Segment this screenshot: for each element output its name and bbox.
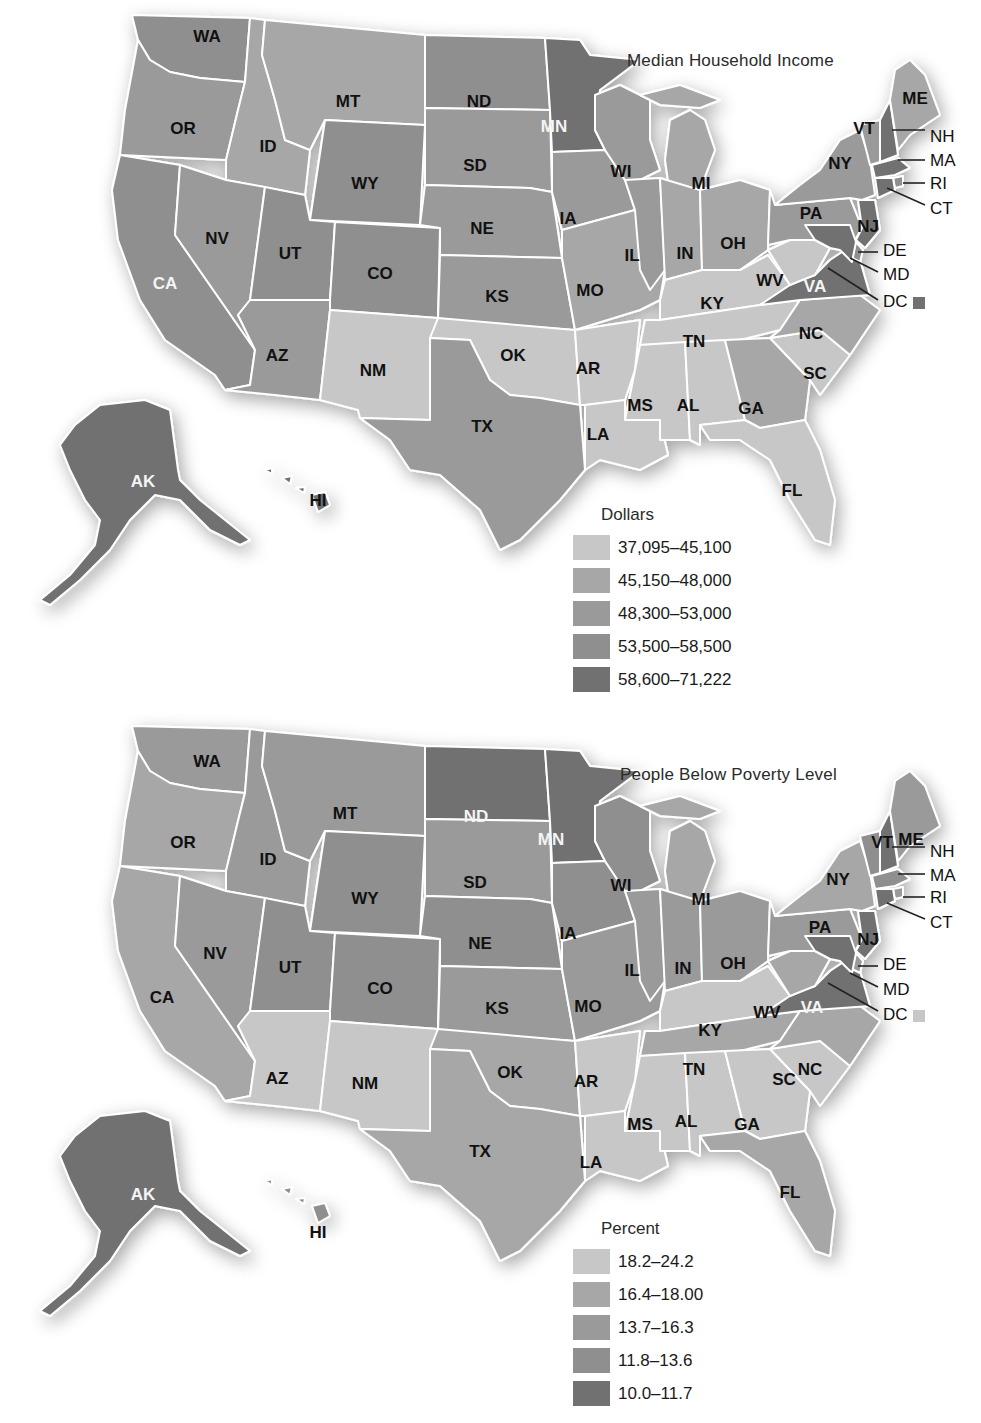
state-label-wi: WI [611,876,632,895]
state-label-ut: UT [279,244,302,263]
legend-swatch [573,535,610,560]
state-label-ok: OK [500,346,526,365]
state-label-mo: MO [576,281,603,300]
state-label-wv: WV [753,1003,781,1022]
state-label-wi: WI [611,162,632,181]
state-label-pa: PA [809,918,831,937]
state-label-oh: OH [720,954,746,973]
legend-swatch [573,1249,610,1274]
state-label-me: ME [902,89,928,108]
us-choropleth-map: WAORCANVIDMTWYUTCOAZNMNDSDNEKSOKTXMNIAMO… [0,711,981,1423]
legend: Percent18.2–24.216.4–18.0013.7–16.311.8–… [573,1219,703,1410]
state-label-ma: MA [930,866,956,885]
state-oh [700,180,770,270]
state-label-mn: MN [541,117,567,136]
state-label-oh: OH [720,234,746,253]
legend-item: 48,300–53,000 [573,597,731,630]
legend: Dollars37,095–45,10045,150–48,00048,300–… [573,505,731,696]
legend-item: 53,500–58,500 [573,630,731,663]
dc-swatch [913,297,925,309]
legend-item: 18.2–24.2 [573,1245,703,1278]
state-label-ne: NE [468,934,492,953]
legend-label: 18.2–24.2 [618,1252,694,1272]
leader-line-ct [887,188,925,205]
legend-label: 13.7–16.3 [618,1318,694,1338]
state-label-nm: NM [360,361,386,380]
legend-item: 13.7–16.3 [573,1311,703,1344]
state-label-ok: OK [497,1063,523,1082]
legend-item: 11.8–13.6 [573,1344,703,1377]
legend-swatch [573,568,610,593]
state-label-in: IN [677,244,694,263]
state-label-nj: NJ [857,217,879,236]
state-label-ca: CA [153,274,178,293]
state-label-dc: DC [883,292,908,311]
legend-label: 53,500–58,500 [618,637,731,657]
state-label-la: LA [580,1153,603,1172]
legend-label: 48,300–53,000 [618,604,731,624]
us-choropleth-map: WAORCANVIDMTWYUTCOAZNMNDSDNEKSOKTXMNIAMO… [0,0,981,711]
state-label-nh: NH [930,842,955,861]
state-label-ny: NY [826,870,850,889]
state-label-hi: HI [310,1223,327,1242]
state-label-de: DE [883,955,907,974]
state-label-ky: KY [700,294,724,313]
state-label-ca: CA [150,988,175,1007]
state-label-sd: SD [463,156,487,175]
state-sd [425,819,552,903]
state-label-mt: MT [336,92,361,111]
legend-swatch [573,1282,610,1307]
state-label-mo: MO [574,997,601,1016]
state-label-il: IL [624,246,639,265]
state-label-al: AL [675,1112,698,1131]
leader-line-ct [887,903,925,919]
state-label-mi: MI [692,174,711,193]
state-label-id: ID [260,137,277,156]
state-label-wa: WA [193,27,220,46]
state-label-mi: MI [692,890,711,909]
state-label-nh: NH [930,127,955,146]
legend-title: Dollars [573,505,731,525]
state-label-in: IN [675,959,692,978]
map-title: People Below Poverty Level [620,765,837,785]
state-label-al: AL [677,396,700,415]
map-panel-income: WAORCANVIDMTWYUTCOAZNMNDSDNEKSOKTXMNIAMO… [0,0,981,711]
state-label-ia: IA [560,209,577,228]
state-ak [40,400,250,605]
state-label-mt: MT [333,804,358,823]
state-label-ar: AR [576,359,601,378]
map-panel-poverty: WAORCANVIDMTWYUTCOAZNMNDSDNEKSOKTXMNIAMO… [0,711,981,1423]
state-label-ga: GA [738,399,764,418]
state-ct [875,889,895,909]
state-label-ny: NY [828,154,852,173]
state-ny [775,841,875,916]
state-label-de: DE [883,241,907,260]
state-label-ct: CT [930,913,953,932]
state-label-ak: AK [131,1185,156,1204]
state-ak [40,1111,250,1316]
state-label-dc: DC [883,1005,908,1024]
map-title: Median Household Income [627,51,834,71]
state-label-va: VA [801,998,823,1017]
state-label-ia: IA [560,924,577,943]
legend-swatch [573,1348,610,1373]
dc-swatch [913,1010,925,1022]
state-wy [310,120,425,225]
state-label-ri: RI [930,888,947,907]
state-label-fl: FL [782,481,803,500]
state-label-tn: TN [683,332,706,351]
state-hi [265,1179,330,1223]
state-label-sd: SD [463,873,487,892]
legend-swatch [573,667,610,692]
state-fl [700,1131,835,1256]
state-label-nc: NC [799,324,824,343]
state-label-co: CO [367,264,393,283]
state-label-nc: NC [798,1060,823,1079]
legend-label: 10.0–11.7 [618,1384,692,1404]
legend-label: 45,150–48,000 [618,571,731,591]
legend-item: 10.0–11.7 [573,1377,703,1410]
state-label-nj: NJ [857,930,879,949]
state-label-nd: ND [467,92,492,111]
state-label-or: OR [170,833,196,852]
state-label-hi: HI [310,491,327,510]
